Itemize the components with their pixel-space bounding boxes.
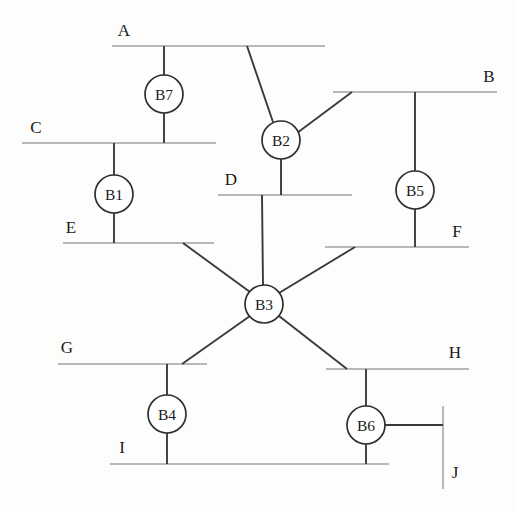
bus-label-c: C [30, 118, 41, 137]
bus-label-g: G [61, 338, 73, 357]
branch-b-b2 [297, 92, 352, 133]
node-label-b3: B3 [255, 296, 273, 313]
node-label-b2: B2 [272, 132, 290, 149]
node-label-b7: B7 [155, 86, 173, 103]
node-label-b1: B1 [105, 186, 123, 203]
bus-label-j: J [452, 463, 459, 482]
node-b3[interactable]: B3 [245, 285, 283, 323]
branch-d-b3 [262, 195, 263, 285]
bus-label-e: E [66, 218, 76, 237]
bus-layer [22, 46, 497, 489]
bus-label-a: A [118, 21, 131, 40]
node-layer: B7B1B2B5B3B4B6 [95, 75, 434, 444]
node-b1[interactable]: B1 [95, 175, 133, 213]
branch-f-b3 [279, 247, 355, 293]
node-label-b5: B5 [406, 182, 424, 199]
node-b2[interactable]: B2 [262, 121, 300, 159]
network-graphic: B7B1B2B5B3B4B6 ABCDEFGHIJ [0, 0, 517, 512]
node-b7[interactable]: B7 [145, 75, 183, 113]
node-label-b6: B6 [357, 417, 375, 434]
branch-b3-g [182, 316, 250, 364]
bus-label-f: F [452, 222, 461, 241]
bus-label-d: D [225, 170, 237, 189]
bus-label-i: I [119, 438, 125, 457]
bus-label-b: B [483, 67, 494, 86]
node-label-b4: B4 [158, 406, 176, 423]
one-line-diagram: B7B1B2B5B3B4B6 ABCDEFGHIJ [0, 0, 517, 512]
node-b4[interactable]: B4 [148, 395, 186, 433]
node-b5[interactable]: B5 [396, 171, 434, 209]
node-b6[interactable]: B6 [347, 406, 385, 444]
bus-label-h: H [449, 343, 461, 362]
branch-e-b3 [183, 243, 250, 292]
branch-a-b2 [247, 46, 273, 122]
branch-b3-h [279, 316, 347, 369]
